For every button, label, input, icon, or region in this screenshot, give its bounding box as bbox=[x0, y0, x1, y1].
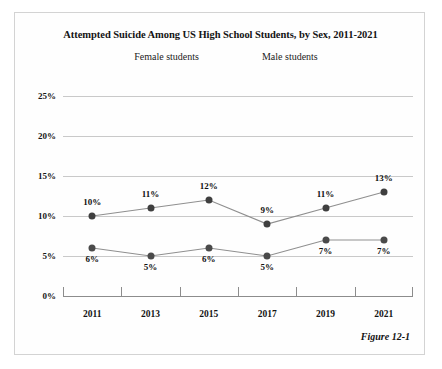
y-axis-tick-label: 5% bbox=[43, 251, 57, 261]
data-point-marker[interactable] bbox=[264, 221, 271, 228]
data-point-marker[interactable] bbox=[322, 237, 329, 244]
data-point-marker[interactable] bbox=[147, 205, 154, 212]
data-point-label: 10% bbox=[83, 197, 101, 207]
x-axis-tick-label: 2013 bbox=[141, 309, 160, 319]
series-lines bbox=[63, 96, 413, 296]
data-point-label: 5% bbox=[144, 262, 158, 272]
data-point-label: 11% bbox=[142, 189, 160, 199]
legend-label-male: Male students bbox=[262, 51, 318, 62]
data-point-label: 7% bbox=[377, 246, 391, 256]
chart-legend: Female students Male students bbox=[15, 51, 426, 62]
figure-caption: Figure 12-1 bbox=[361, 331, 410, 342]
chart-title: Attempted Suicide Among US High School S… bbox=[15, 29, 426, 40]
data-point-label: 7% bbox=[319, 246, 333, 256]
legend-marker-female-icon bbox=[123, 54, 129, 60]
x-axis-tick-label: 2021 bbox=[374, 309, 393, 319]
y-axis-tick-label: 10% bbox=[38, 211, 56, 221]
y-axis-tick-label: 25% bbox=[38, 91, 56, 101]
data-point-marker[interactable] bbox=[264, 253, 271, 260]
x-axis-tick-label: 2017 bbox=[258, 309, 277, 319]
y-axis-tick-label: 20% bbox=[38, 131, 56, 141]
data-point-label: 6% bbox=[85, 254, 99, 264]
series-polyline bbox=[92, 192, 384, 224]
legend-item-male[interactable]: Male students bbox=[251, 51, 318, 62]
x-axis-tick-label: 2019 bbox=[316, 309, 335, 319]
data-point-label: 11% bbox=[317, 189, 335, 199]
page-canvas: Attempted Suicide Among US High School S… bbox=[0, 0, 442, 369]
data-point-marker[interactable] bbox=[205, 245, 212, 252]
data-point-marker[interactable] bbox=[380, 189, 387, 196]
data-point-label: 9% bbox=[260, 205, 274, 215]
data-point-label: 12% bbox=[200, 181, 218, 191]
x-axis-tick-label: 2011 bbox=[83, 309, 101, 319]
legend-marker-male-icon bbox=[251, 54, 257, 60]
data-point-label: 6% bbox=[202, 254, 216, 264]
data-point-marker[interactable] bbox=[205, 197, 212, 204]
data-point-marker[interactable] bbox=[380, 237, 387, 244]
data-point-label: 13% bbox=[375, 173, 393, 183]
legend-label-female: Female students bbox=[134, 51, 199, 62]
data-point-marker[interactable] bbox=[89, 213, 96, 220]
data-point-marker[interactable] bbox=[147, 253, 154, 260]
y-axis-tick-label: 15% bbox=[38, 171, 56, 181]
data-point-marker[interactable] bbox=[89, 245, 96, 252]
x-axis-line bbox=[63, 296, 413, 297]
x-axis-tick-label: 2015 bbox=[199, 309, 218, 319]
legend-item-female[interactable]: Female students bbox=[123, 51, 199, 62]
data-point-label: 5% bbox=[260, 262, 274, 272]
y-axis-tick-label: 0% bbox=[43, 291, 57, 301]
series-polyline bbox=[92, 240, 384, 256]
data-point-marker[interactable] bbox=[322, 205, 329, 212]
plot-area: 0%5%10%15%20%25% 20112013201520172019202… bbox=[63, 96, 413, 296]
figure-frame: Attempted Suicide Among US High School S… bbox=[14, 12, 425, 355]
